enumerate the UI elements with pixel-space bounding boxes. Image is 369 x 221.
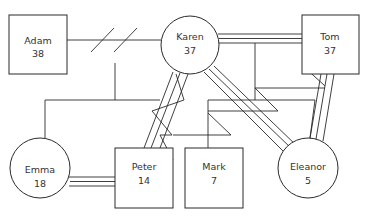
edge-emma-peter-very-close (69, 177, 115, 186)
edge-karen-eleanor-very-close (204, 66, 298, 155)
node-age: 37 (184, 45, 196, 56)
node-karen[interactable]: Karen 37 (161, 16, 219, 74)
node-adam[interactable]: Adam 38 (9, 15, 67, 74)
edge-adam-karen-divorced (67, 28, 161, 52)
node-name: Mark (202, 161, 226, 172)
edge-karen-tom-very-close (218, 34, 302, 43)
node-tom[interactable]: Tom 37 (302, 15, 359, 74)
node-age: 7 (211, 175, 217, 186)
node-age: 5 (305, 175, 311, 186)
node-eleanor[interactable]: Eleanor 5 (278, 138, 338, 198)
node-peter[interactable]: Peter 14 (115, 148, 173, 208)
node-name: Adam (24, 35, 51, 46)
node-age: 14 (138, 175, 150, 186)
node-mark[interactable]: Mark 7 (185, 148, 243, 208)
node-emma[interactable]: Emma 18 (10, 138, 70, 198)
node-age: 38 (32, 48, 44, 59)
node-age: 18 (34, 178, 46, 189)
edge-tom-eleanor-very-close (302, 65, 334, 141)
node-name: Karen (176, 31, 203, 42)
node-name: Emma (25, 164, 55, 175)
node-name: Peter (132, 161, 157, 172)
genogram-diagram: Adam 38 Karen 37 Tom 37 Emma 18 Peter 14… (0, 0, 369, 221)
edge-tom-mark-conflictual (173, 88, 278, 135)
node-name: Eleanor (290, 161, 326, 172)
node-name: Tom (319, 31, 339, 42)
node-age: 37 (324, 45, 336, 56)
edge-karen-peter-conflictual (144, 72, 188, 160)
